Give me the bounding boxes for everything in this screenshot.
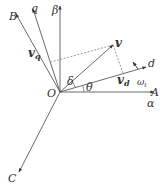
delta-label: δ <box>67 75 74 88</box>
theta-arc <box>83 86 84 92</box>
dq-transformation-diagram: O β A α B q C d v vd vq δ θ ωt <box>0 0 160 196</box>
origin-label: O <box>47 87 56 100</box>
beta-label: β <box>51 4 58 17</box>
q-label: q <box>31 2 38 15</box>
rotation-arrow <box>133 62 138 69</box>
v-label: v <box>115 36 123 50</box>
c-label: C <box>8 172 17 185</box>
vq-label: vq <box>28 46 41 61</box>
c-axis <box>19 92 60 172</box>
d-label: d <box>148 57 155 70</box>
b-label: B <box>8 10 17 23</box>
theta-label: θ <box>86 81 93 94</box>
vd-label: vd <box>117 73 130 88</box>
alpha-label: α <box>147 97 155 110</box>
omega-t-label: ωt <box>137 77 147 88</box>
